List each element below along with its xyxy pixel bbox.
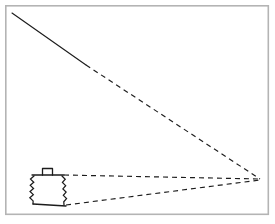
figure-root xyxy=(0,0,275,224)
figure-canvas xyxy=(0,0,275,224)
figure-frame xyxy=(6,6,269,215)
